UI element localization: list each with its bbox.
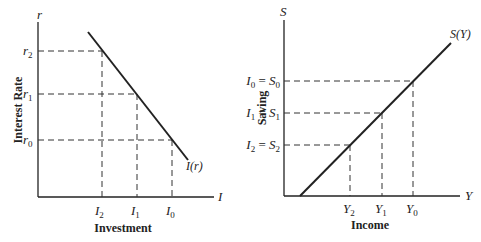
diagram-canvas: r I I(r) r2 r1 r0 I2 I1 I0 Interest Rate…: [0, 0, 481, 242]
left-y-axis-symbol: r: [37, 7, 43, 22]
tick-Y1: Y1: [375, 201, 387, 218]
tick-I1: I1: [130, 203, 140, 220]
tick-Y2: Y2: [343, 201, 355, 218]
left-x-axis-symbol: I: [217, 189, 223, 204]
right-y-axis-symbol: S: [280, 4, 287, 19]
tick-I0: I0: [165, 203, 175, 220]
right-x-axis-symbol: Y: [465, 188, 474, 203]
tick-r2: r2: [23, 43, 33, 60]
left-x-axis-title: Investment: [94, 221, 151, 235]
investment-panel: r I I(r) r2 r1 r0 I2 I1 I0 Interest Rate…: [11, 7, 223, 235]
saving-curve: [300, 43, 451, 196]
saving-panel: S Y S(Y) I0 = S0 I1 = S1 I2 = S2 Y2 Y1 Y…: [245, 4, 474, 232]
investment-curve-label: I(r): [185, 159, 203, 173]
tick-I2-eq-S2: I2 = S2: [245, 137, 280, 154]
right-y-axis-title: Saving: [255, 91, 269, 126]
tick-I0-eq-S0: I0 = S0: [245, 73, 280, 90]
right-x-axis-title: Income: [351, 218, 390, 232]
left-y-axis-title: Interest Rate: [11, 76, 25, 143]
tick-I2: I2: [94, 203, 104, 220]
tick-Y0: Y0: [406, 201, 418, 218]
saving-curve-label: S(Y): [450, 27, 471, 41]
investment-curve: [88, 32, 188, 160]
left-guide-lines: [38, 51, 172, 197]
right-guide-lines: [284, 81, 413, 196]
